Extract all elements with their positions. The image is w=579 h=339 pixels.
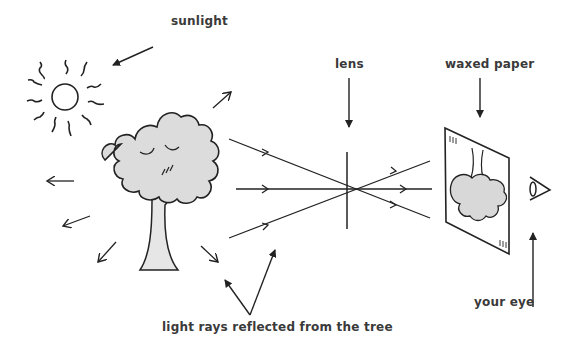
label-your-eye: your eye	[474, 295, 534, 309]
sunlight-arrow	[113, 47, 153, 65]
label-lens: lens	[335, 57, 364, 71]
waxed-paper-icon	[445, 128, 509, 254]
label-waxed-paper: waxed paper	[445, 57, 534, 71]
diagram-canvas	[0, 0, 579, 339]
eye-icon	[530, 177, 550, 200]
sun-icon	[27, 60, 104, 136]
light-rays	[229, 139, 432, 238]
label-arrows	[225, 250, 275, 315]
label-sunlight: sunlight	[171, 14, 228, 28]
label-light-rays: light rays reflected from the tree	[162, 320, 393, 334]
